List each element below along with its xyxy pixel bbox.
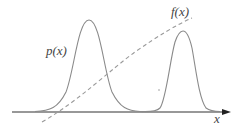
p-curve-label: p(x) bbox=[46, 44, 67, 57]
marker-dot bbox=[158, 89, 160, 91]
p-density-curve bbox=[35, 20, 220, 112]
f-curve-label: f(x) bbox=[171, 5, 189, 18]
x-axis-label: x bbox=[214, 112, 220, 125]
axis-arrowhead-icon bbox=[222, 109, 231, 115]
diagram-canvas: p(x) f(x) x bbox=[0, 0, 243, 132]
